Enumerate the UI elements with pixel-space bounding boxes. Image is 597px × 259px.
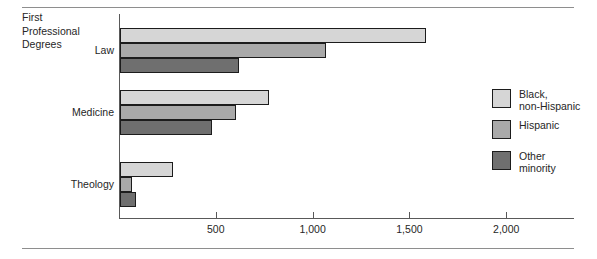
legend-label-hispanic: Hispanic <box>519 119 559 131</box>
legend-swatch-hispanic <box>492 120 511 139</box>
bar-law-other-minority <box>120 58 239 73</box>
category-label-theology: Theology <box>22 178 114 190</box>
legend-item-other-minority: Other minority <box>492 150 592 172</box>
bar-law-black-non-hispanic <box>120 28 426 43</box>
axis-tick-500 <box>216 212 217 219</box>
axis-tick-label-2000: 2,000 <box>476 223 536 235</box>
bottom-divider-rule <box>22 248 574 249</box>
legend-label-black-non-hispanic: Black, non-Hispanic <box>519 88 580 112</box>
chart-figure: First Professional Degrees 5001,0001,500… <box>0 0 597 259</box>
axis-tick-label-1000: 1,000 <box>283 223 343 235</box>
axis-tick-2000 <box>506 212 507 219</box>
axis-tick-label-1500: 1,500 <box>379 223 439 235</box>
legend-item-hispanic: Hispanic <box>492 119 592 141</box>
axis-tick-label-500: 500 <box>186 223 246 235</box>
legend-swatch-black-non-hispanic <box>492 89 511 108</box>
axis-tick-1500 <box>409 212 410 219</box>
bar-medicine-other-minority <box>120 120 212 135</box>
axis-tick-1000 <box>313 212 314 219</box>
bar-theology-hispanic <box>120 177 132 192</box>
legend-item-black-non-hispanic: Black, non-Hispanic <box>492 88 592 110</box>
bar-theology-other-minority <box>120 192 136 207</box>
legend-label-other-minority: Other minority <box>519 150 556 174</box>
bar-medicine-hispanic <box>120 105 236 120</box>
bar-theology-black-non-hispanic <box>120 162 173 177</box>
legend-swatch-other-minority <box>492 151 511 170</box>
category-label-law: Law <box>22 44 114 56</box>
top-divider-rule <box>22 7 574 8</box>
bar-medicine-black-non-hispanic <box>120 90 269 105</box>
chart-legend: Black, non-HispanicHispanicOther minorit… <box>492 88 592 181</box>
bar-law-hispanic <box>120 43 326 58</box>
category-label-medicine: Medicine <box>22 106 114 118</box>
